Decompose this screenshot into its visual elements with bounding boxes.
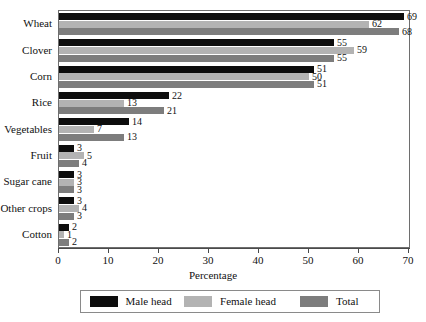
x-tick-label-50: 50	[303, 255, 314, 266]
plot-bars-area: 6962685559555150512213211471335433334321…	[59, 11, 409, 248]
bar-row: 3	[59, 197, 409, 204]
bar-group: 555955	[59, 37, 409, 63]
bar-group: 14713	[59, 116, 409, 142]
x-tick-label-10: 10	[103, 255, 114, 266]
bar-row: 13	[59, 100, 409, 107]
bar	[59, 197, 74, 204]
x-tick-label-20: 20	[153, 255, 164, 266]
bar	[59, 73, 309, 80]
x-tick	[358, 248, 359, 253]
y-axis-label-cotton: Cotton	[22, 229, 52, 240]
bar-row: 3	[59, 179, 409, 186]
y-axis-label-sugar-cane: Sugar cane	[3, 176, 52, 187]
x-tick	[308, 248, 309, 253]
bar	[59, 100, 124, 107]
y-axis-label-clover: Clover	[22, 45, 52, 56]
bar-row: 55	[59, 55, 409, 62]
bar-row: 4	[59, 160, 409, 167]
bar-row: 3	[59, 186, 409, 193]
bar-row: 69	[59, 13, 409, 20]
legend-swatch-icon	[184, 296, 212, 307]
bar	[59, 171, 74, 178]
bar-value-label: 21	[164, 106, 177, 116]
bar	[59, 107, 164, 114]
bar-row: 59	[59, 47, 409, 54]
bar	[59, 134, 124, 141]
bar-row: 2	[59, 239, 409, 246]
y-axis-label-rice: Rice	[32, 97, 52, 108]
bar	[59, 145, 74, 152]
bar-value-label: 13	[124, 132, 137, 142]
legend-label: Total	[336, 296, 358, 307]
x-tick	[258, 248, 259, 253]
legend-label: Male head	[126, 296, 172, 307]
bar	[59, 47, 354, 54]
bar-row: 50	[59, 73, 409, 80]
bar	[59, 186, 74, 193]
legend-item: Female head	[180, 296, 279, 307]
bar-value-label: 68	[399, 27, 412, 37]
bar-row: 62	[59, 21, 409, 28]
bar	[59, 66, 314, 73]
x-tick-label-0: 0	[55, 255, 61, 266]
y-axis-label-vegetables: Vegetables	[4, 124, 52, 135]
x-tick-label-60: 60	[353, 255, 364, 266]
bar-chart: 6962685559555150512213211471335433334321…	[0, 0, 426, 322]
bar-group: 696268	[59, 11, 409, 37]
bar	[59, 28, 399, 35]
bar-value-label: 51	[314, 79, 327, 89]
bar	[59, 81, 314, 88]
bar-row: 21	[59, 107, 409, 114]
bar	[59, 126, 94, 133]
chart-legend: Male headFemale headTotal	[80, 290, 380, 313]
bar	[59, 21, 369, 28]
bar-row: 3	[59, 213, 409, 220]
bar-group: 212	[59, 222, 409, 248]
y-axis-label-corn: Corn	[30, 71, 52, 82]
bar	[59, 39, 334, 46]
x-tick	[158, 248, 159, 253]
bar-row: 13	[59, 134, 409, 141]
legend-label: Female head	[220, 296, 276, 307]
bar-value-label: 3	[74, 185, 82, 195]
bar-row: 1	[59, 231, 409, 238]
bar-row: 51	[59, 66, 409, 73]
x-tick	[108, 248, 109, 253]
bar	[59, 160, 79, 167]
bar-row: 5	[59, 152, 409, 159]
y-axis-label-wheat: Wheat	[23, 18, 52, 29]
x-tick	[208, 248, 209, 253]
bar-group: 343	[59, 195, 409, 221]
bar-group: 354	[59, 143, 409, 169]
legend-item: Male head	[81, 296, 180, 307]
bar-row: 3	[59, 145, 409, 152]
bar-group: 333	[59, 169, 409, 195]
bar-row: 4	[59, 205, 409, 212]
bar-value-label: 4	[79, 158, 87, 168]
bar-value-label: 2	[69, 237, 77, 247]
y-axis-label-fruit: Fruit	[31, 150, 52, 161]
bar-row: 68	[59, 28, 409, 35]
x-tick-label-30: 30	[203, 255, 214, 266]
bar-row: 2	[59, 224, 409, 231]
x-tick	[58, 248, 59, 253]
legend-swatch-icon	[90, 296, 118, 307]
bar	[59, 239, 69, 246]
bar	[59, 92, 169, 99]
bar-row: 3	[59, 171, 409, 178]
x-tick-label-40: 40	[253, 255, 264, 266]
legend-item: Total	[280, 296, 379, 307]
bar-value-label: 3	[74, 211, 82, 221]
bar	[59, 213, 74, 220]
y-axis-label-other-crops: Other crops	[0, 203, 52, 214]
bar-group: 221321	[59, 90, 409, 116]
bar	[59, 179, 74, 186]
x-axis-title: Percentage	[0, 270, 426, 281]
bar-row: 14	[59, 118, 409, 125]
bar-row: 22	[59, 92, 409, 99]
legend-swatch-icon	[300, 296, 328, 307]
bar	[59, 13, 404, 20]
bar-row: 7	[59, 126, 409, 133]
x-tick	[408, 248, 409, 253]
bar-group: 515051	[59, 64, 409, 90]
